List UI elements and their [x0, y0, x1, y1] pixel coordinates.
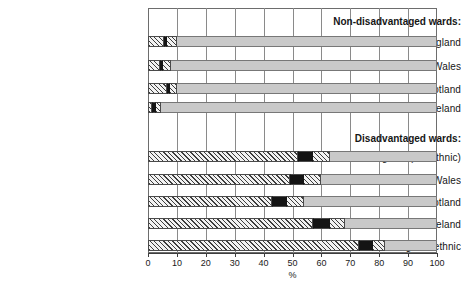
bar-segment-lower-hatched [148, 83, 167, 94]
x-tick-label: 100 [429, 258, 444, 268]
x-tick-100 [437, 253, 438, 257]
bar-segment-lower-hatched [148, 151, 298, 162]
bar-segment-upper-hatched [167, 36, 177, 47]
group-header-group_non_disadvantaged: Non-disadvantaged wards: [315, 16, 461, 27]
bar-segment-black-marker [290, 174, 304, 185]
bar-segment-black-marker [272, 196, 286, 207]
bar-segment-lower-hatched [148, 174, 290, 185]
x-tick-label: 10 [172, 258, 182, 268]
x-axis-title: % [148, 270, 437, 280]
bar-remainder-segment [148, 102, 437, 113]
x-tick-label: 90 [403, 258, 413, 268]
bar-segment-upper-hatched [156, 102, 161, 113]
bar-segment-lower-hatched [148, 218, 313, 229]
group-header-group_disadvantaged: Disadvantaged wards: [315, 133, 461, 144]
x-tick-90 [408, 253, 409, 257]
x-tick-60 [321, 253, 322, 257]
bar-segment-upper-hatched [163, 60, 171, 71]
horizontal-stacked-bar-chart: Non-disadvantaged wards:EnglandWalesScot… [0, 0, 461, 296]
x-tick-label: 20 [201, 258, 211, 268]
bar-segment-upper-hatched [313, 151, 330, 162]
bar-segment-lower-hatched [148, 60, 160, 71]
x-tick-label: 0 [145, 258, 150, 268]
bar-remainder-segment [148, 36, 437, 47]
bar-remainder-segment [148, 83, 437, 94]
bar-segment-upper-hatched [287, 196, 304, 207]
x-tick-label: 60 [316, 258, 326, 268]
bar-segment-lower-hatched [148, 196, 272, 207]
x-tick-30 [235, 253, 236, 257]
x-tick-70 [350, 253, 351, 257]
x-tick-label: 70 [345, 258, 355, 268]
bar-segment-upper-hatched [170, 83, 177, 94]
x-tick-80 [379, 253, 380, 257]
bar-segment-lower-hatched [148, 36, 164, 47]
x-tick-label: 50 [287, 258, 297, 268]
bar-segment-upper-hatched [373, 240, 385, 251]
bar-segment-upper-hatched [304, 174, 321, 185]
bar-segment-lower-hatched [148, 240, 359, 251]
bar-segment-black-marker [313, 218, 330, 229]
x-tick-label: 40 [259, 258, 269, 268]
x-tick-label: 30 [230, 258, 240, 268]
x-tick-0 [148, 253, 149, 257]
x-tick-50 [293, 253, 294, 257]
x-tick-label: 80 [374, 258, 384, 268]
x-tick-20 [206, 253, 207, 257]
bar-segment-black-marker [359, 240, 373, 251]
bar-remainder-segment [148, 60, 437, 71]
bar-segment-upper-hatched [330, 218, 344, 229]
x-tick-40 [264, 253, 265, 257]
bar-segment-black-marker [298, 151, 312, 162]
x-tick-10 [177, 253, 178, 257]
